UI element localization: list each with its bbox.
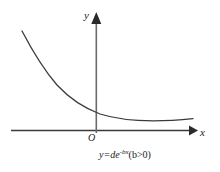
equation-exponent: -bx — [120, 148, 129, 156]
x-axis-label: x — [200, 127, 205, 138]
equation-lhs: y=d — [99, 149, 115, 160]
curve-equation-label: y=de-bx(b>0) — [99, 150, 151, 160]
exponential-decay-figure: y x O y=de-bx(b>0) — [0, 0, 220, 172]
plot-canvas — [0, 0, 220, 172]
y-axis-arrowhead — [91, 12, 101, 24]
equation-condition: (b>0) — [129, 149, 151, 160]
origin-label: O — [88, 133, 95, 143]
y-axis-label: y — [84, 10, 89, 21]
exponential-curve — [22, 31, 193, 121]
x-axis-arrowhead — [189, 126, 198, 136]
